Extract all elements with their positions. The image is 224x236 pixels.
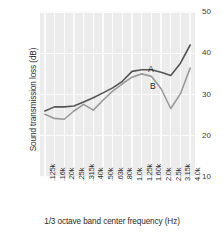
y-tick-label: 50 [202, 7, 211, 16]
chart-figure: Sound transmission loss (dB) AB 50403020… [0, 0, 224, 236]
series-line-a [45, 45, 190, 111]
x-tick-label: 2.0k [164, 168, 173, 181]
x-axis-title: 1/3 octave band center frequency (Hz) [22, 217, 202, 226]
y-tick-label: 40 [202, 48, 211, 57]
x-tick-label: 3.15k [183, 164, 192, 181]
y-tick-label: 20 [202, 131, 211, 140]
series-label-a: A [148, 64, 154, 74]
x-tick-label: 2.5k [174, 168, 183, 181]
y-tick-label: 10 [202, 172, 211, 181]
x-tick-label: .20k [67, 168, 76, 181]
x-tick-label: .63k [116, 168, 125, 181]
x-tick-label: .315k [87, 164, 96, 181]
x-tick-label: 1.0k [135, 168, 144, 181]
series-label-b: B [150, 81, 156, 91]
y-tick-label: 30 [202, 90, 211, 99]
data-curves [40, 12, 195, 177]
x-tick-label: .50k [106, 168, 115, 181]
series-line-b [45, 68, 190, 119]
x-tick-label: .125k [48, 164, 57, 181]
x-tick-label: 4.0k [193, 168, 202, 181]
y-axis-title: Sound transmission loss (dB) [29, 15, 38, 185]
x-tick-label: .16k [58, 168, 67, 181]
x-tick-label: .25k [77, 168, 86, 181]
x-tick-label: 1.60k [154, 164, 163, 181]
x-tick-label: 1.25k [145, 164, 154, 181]
x-tick-label: .80k [125, 168, 134, 181]
plot-panel [40, 12, 195, 177]
x-tick-label: .40k [96, 168, 105, 181]
